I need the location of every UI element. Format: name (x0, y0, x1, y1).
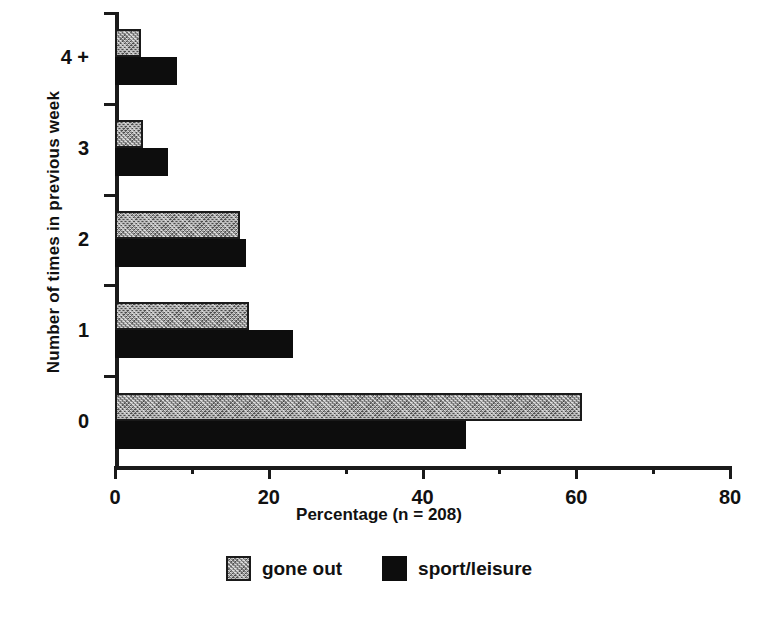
y-axis-category-label: 4 + (29, 46, 89, 69)
bar-gone-out (115, 393, 582, 421)
legend-label: sport/leisure (418, 558, 532, 580)
legend-swatch-gone-out (226, 556, 251, 581)
x-axis-minor-tick (191, 466, 194, 474)
y-axis-tick (104, 194, 116, 197)
bar-gone-out (115, 302, 249, 330)
legend-swatch-sport-leisure (382, 556, 407, 581)
plot-area: 01234 + 020406080 (115, 12, 730, 470)
legend-entry: gone out (226, 556, 342, 581)
bar-gone-out (115, 120, 143, 148)
y-axis-tick (104, 12, 116, 15)
x-axis-tick (268, 466, 271, 479)
bar-sport-leisure (115, 421, 466, 449)
x-axis-tick (114, 466, 117, 479)
bar-gone-out (115, 29, 141, 57)
y-axis-tick (104, 284, 116, 287)
y-axis-category-label: 1 (29, 318, 89, 341)
x-axis-minor-tick (498, 466, 501, 474)
bar-sport-leisure (115, 239, 246, 267)
legend-label: gone out (262, 558, 342, 580)
legend-entry: sport/leisure (382, 556, 532, 581)
bar-sport-leisure (115, 148, 168, 176)
x-axis-minor-tick (652, 466, 655, 474)
y-axis-tick (104, 375, 116, 378)
x-axis-minor-tick (345, 466, 348, 474)
x-axis-tick (575, 466, 578, 479)
y-axis-category-label: 3 (29, 137, 89, 160)
chart-legend: gone outsport/leisure (0, 556, 758, 581)
x-axis-tick (729, 466, 732, 479)
bar-chart-figure: Number of times in previous week 01234 +… (0, 0, 758, 624)
y-axis-tick (104, 103, 116, 106)
y-axis-category-label: 0 (29, 409, 89, 432)
x-axis-title: Percentage (n = 208) (0, 505, 758, 525)
bar-sport-leisure (115, 57, 177, 85)
x-axis-tick (422, 466, 425, 479)
bar-gone-out (115, 211, 240, 239)
bar-sport-leisure (115, 330, 293, 358)
y-axis-category-label: 2 (29, 228, 89, 251)
